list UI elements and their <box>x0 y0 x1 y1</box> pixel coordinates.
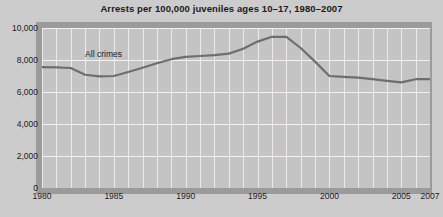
x-axis-ticks: 1980198519901995200020052007 <box>0 191 443 211</box>
x-axis-label: 1995 <box>248 191 267 201</box>
x-axis-label: 1980 <box>33 191 52 201</box>
y-axis-label: 2,000 <box>2 151 38 161</box>
chart-container: Arrests per 100,000 juveniles ages 10–17… <box>0 0 443 217</box>
series-label-all-crimes: All crimes <box>85 49 122 59</box>
x-axis-label: 1985 <box>104 191 123 201</box>
y-axis-label: 10,000 <box>2 23 38 33</box>
x-axis-label: 2007 <box>421 191 440 201</box>
x-axis-label: 2005 <box>392 191 411 201</box>
x-axis-label: 2000 <box>320 191 339 201</box>
y-axis-label: 4,000 <box>2 119 38 129</box>
y-axis-label: 6,000 <box>2 87 38 97</box>
y-axis-ticks: 02,0004,0006,0008,00010,000 <box>0 0 38 217</box>
series-line <box>42 37 430 83</box>
y-axis-label: 8,000 <box>2 55 38 65</box>
x-axis-label: 1990 <box>176 191 195 201</box>
chart-title: Arrests per 100,000 juveniles ages 10–17… <box>0 3 443 14</box>
